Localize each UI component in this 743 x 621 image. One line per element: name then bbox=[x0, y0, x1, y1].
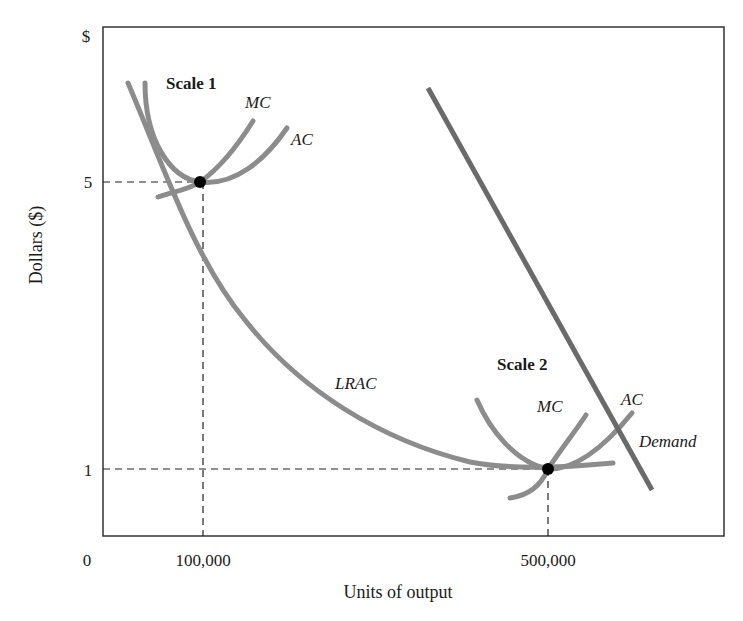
scale1-ac-label: AC bbox=[290, 130, 313, 149]
scale1-mc-label: MC bbox=[244, 93, 271, 112]
demand-line bbox=[428, 88, 652, 490]
plot-frame bbox=[103, 27, 724, 536]
scale2-ac-label: AC bbox=[620, 390, 643, 409]
scale2-mc-label: MC bbox=[536, 397, 563, 416]
x-axis-title: Units of output bbox=[343, 582, 452, 602]
origin-label: 0 bbox=[83, 551, 92, 570]
x-tick-500k: 500,000 bbox=[520, 551, 575, 570]
y-axis-title: Dollars ($) bbox=[26, 206, 47, 284]
scale2-min-point bbox=[542, 463, 554, 475]
y-axis-top-label: $ bbox=[82, 27, 91, 46]
y-tick-1: 1 bbox=[84, 461, 93, 480]
cost-diagram: $ 5 1 0 100,000 500,000 Units of output … bbox=[0, 0, 743, 621]
x-tick-100k: 100,000 bbox=[175, 551, 230, 570]
scale2-label: Scale 2 bbox=[497, 355, 548, 374]
scale1-min-point bbox=[194, 176, 206, 188]
y-tick-5: 5 bbox=[84, 173, 93, 192]
scale1-label: Scale 1 bbox=[166, 74, 217, 93]
lrac-label: LRAC bbox=[334, 374, 377, 393]
demand-label: Demand bbox=[638, 432, 697, 451]
